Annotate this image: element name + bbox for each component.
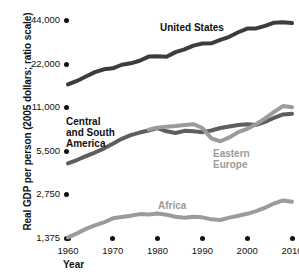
x-axis-title: Year xyxy=(63,259,84,270)
series-label: Africa xyxy=(158,200,186,211)
series-line xyxy=(149,106,292,141)
plot-area xyxy=(0,0,299,274)
series-label: United States xyxy=(160,22,224,33)
series-label: Eastern Europe xyxy=(213,148,250,170)
series-label: Central and South America xyxy=(66,116,115,149)
chart-root: Real GDP per person (2005 dollars; ratio… xyxy=(0,0,299,274)
